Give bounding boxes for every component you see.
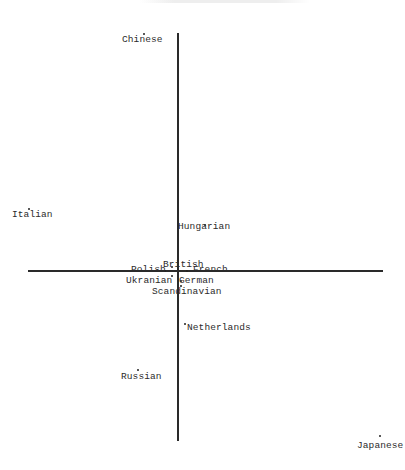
point-label-scandinavian: Scandinavian xyxy=(152,287,222,297)
y-axis xyxy=(177,33,179,441)
point-label-chinese: Chinese xyxy=(122,35,163,45)
data-point-french xyxy=(186,270,188,272)
point-label-hungarian: Hungarian xyxy=(178,222,230,232)
point-label-polish: Polish xyxy=(131,265,166,275)
point-label-russian: Russian xyxy=(121,372,162,382)
point-label-italian: Italian xyxy=(12,210,53,220)
point-label-japanese: Japanese xyxy=(357,441,403,451)
point-label-netherlands: Netherlands xyxy=(187,323,251,333)
point-label-ukranian: Ukranian xyxy=(126,276,172,286)
data-point-netherlands xyxy=(184,323,186,325)
point-label-german: German xyxy=(179,276,214,286)
point-label-french: French xyxy=(193,265,228,275)
cropped-header-text xyxy=(140,0,310,3)
scatter-plot: Chinese Italian Hungarian British Polish… xyxy=(0,0,405,470)
data-point-japanese xyxy=(379,435,381,437)
